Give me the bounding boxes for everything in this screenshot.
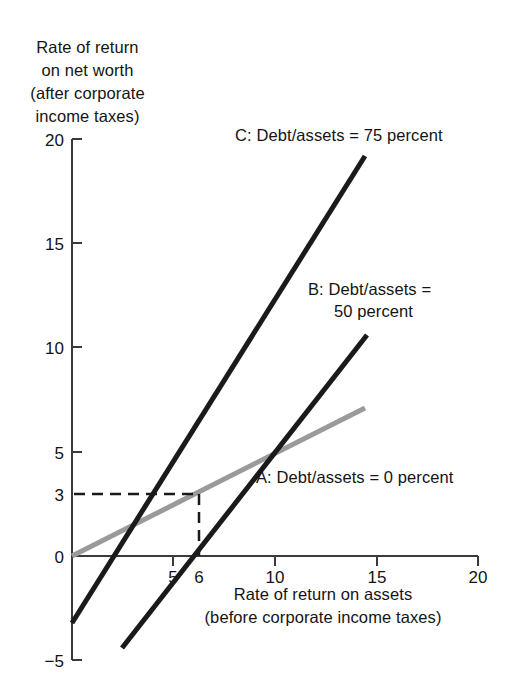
series-line-c [72, 156, 365, 623]
series-label-b-line-2: 50 percent [308, 300, 431, 322]
series-label-b: B: Debt/assets = 50 percent [308, 278, 431, 322]
y-tick-label-minus-5: −5 [45, 652, 64, 671]
series-label-b-line-1: B: Debt/assets = [308, 278, 431, 300]
series-label-c: C: Debt/assets = 75 percent [235, 124, 443, 146]
y-tick-label-5: 5 [55, 444, 64, 463]
y-tick-label-0: 0 [55, 548, 64, 567]
series-label-a: A: Debt/assets = 0 percent [256, 466, 454, 488]
y-tick-label-3: 3 [55, 486, 64, 505]
y-tick-label-20: 20 [45, 131, 64, 150]
y-tick-label-15: 15 [45, 235, 64, 254]
x-axis-label-line-1: Rate of return on assets [158, 583, 488, 606]
chart-page: Rate of return on net worth (after corpo… [0, 0, 517, 699]
y-tick-label-10: 10 [45, 339, 64, 358]
x-axis-label-line-2: (before corporate income taxes) [158, 606, 488, 629]
x-axis-label: Rate of return on assets (before corpora… [158, 583, 488, 629]
